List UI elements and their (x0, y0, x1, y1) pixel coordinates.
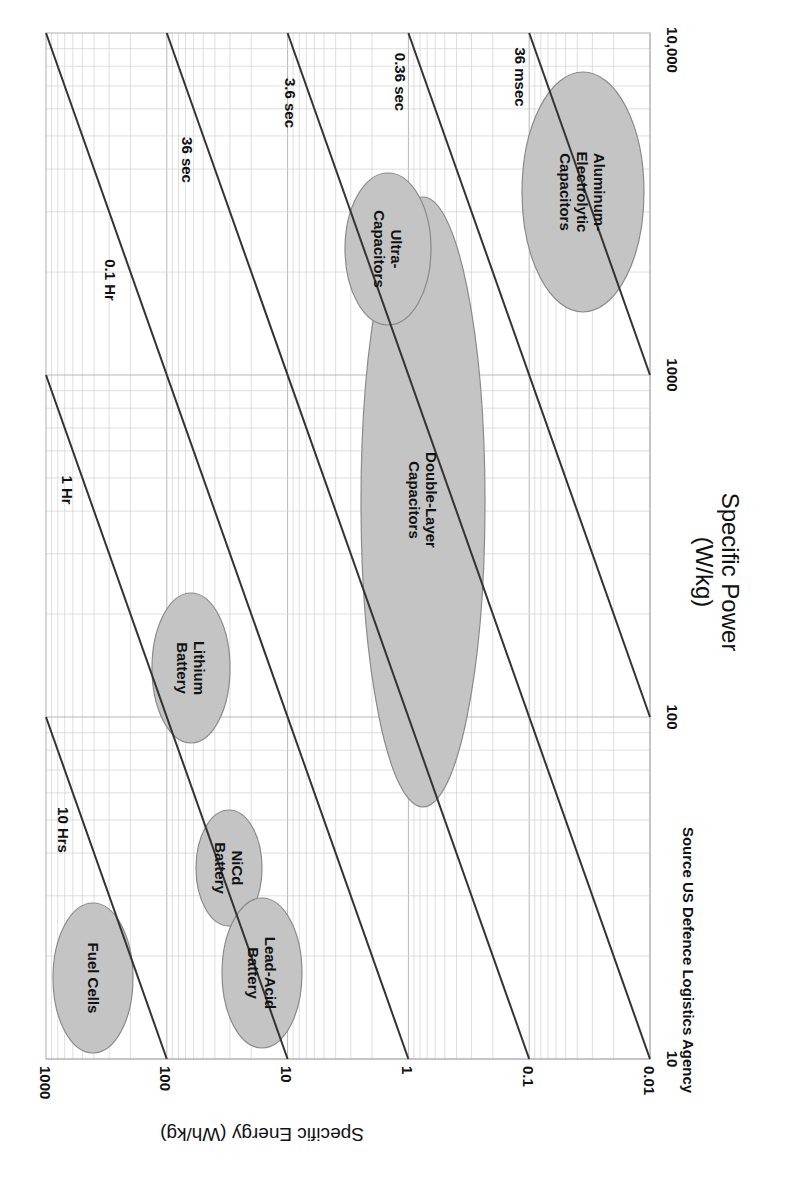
power-axis-title-line1: Specific Power (717, 493, 744, 652)
label-double-layer-line1: Double-Layer (423, 452, 440, 548)
label-nicd-line1: NiCd (229, 851, 246, 886)
regions (53, 72, 644, 1053)
energy-tick-10: 10 (278, 1066, 295, 1083)
power-tick-1000: 1000 (664, 358, 681, 391)
power-tick-10000: 10,000 (664, 27, 681, 73)
label-lead-acid-line2: Battery (245, 947, 262, 999)
label-aluminum-line1: Aluminum- (591, 153, 608, 231)
ragone-chart: 10 Hrs 1 Hr 0.1 Hr 36 sec 3.6 sec 0.36 s… (0, 0, 789, 1189)
line-label-0-1hr: 0.1 Hr (102, 259, 119, 301)
label-aluminum-line2: Electrolytic (574, 152, 591, 233)
line-label-0-36sec: 0.36 sec (392, 53, 409, 111)
label-double-layer-line2: Capacitors (406, 461, 423, 539)
line-label-3-6sec: 3.6 sec (282, 78, 299, 128)
energy-axis-title: Specific Energy (Wh/kg) (160, 1124, 364, 1145)
power-axis-title: Specific Power (W/kg) (691, 493, 744, 652)
label-ultra-line1: Ultra- (388, 229, 405, 268)
energy-tick-0-01: 0.01 (641, 1066, 658, 1095)
energy-axis-ticks: 1000 100 10 1 0.1 0.01 (37, 1066, 658, 1099)
label-nicd-line2: Battery (212, 842, 229, 894)
label-fuel-cells: Fuel Cells (85, 943, 102, 1014)
source-note: Source US Defence Logistics Agency (680, 827, 697, 1094)
label-lithium-line1: Lithium (191, 641, 208, 695)
line-label-1hr: 1 Hr (59, 475, 76, 504)
power-tick-10: 10 (664, 1051, 681, 1068)
line-label-10hrs: 10 Hrs (55, 807, 72, 853)
energy-tick-1000: 1000 (37, 1066, 54, 1099)
energy-tick-0-1: 0.1 (520, 1066, 537, 1087)
label-lithium-line2: Battery (174, 642, 191, 694)
power-tick-100: 100 (664, 704, 681, 729)
line-label-36msec: 36 msec (512, 47, 529, 106)
label-ultra-line2: Capacitors (371, 210, 388, 288)
power-axis-title-line2: (W/kg) (691, 537, 718, 608)
power-axis-ticks: 10 100 1000 10,000 (664, 27, 681, 1067)
energy-tick-100: 100 (157, 1066, 174, 1091)
line-label-36sec: 36 sec (179, 137, 196, 183)
label-aluminum-line3: Capacitors (557, 153, 574, 231)
label-lead-acid-line1: Lead-Acid (262, 937, 279, 1010)
energy-tick-1: 1 (399, 1066, 416, 1074)
